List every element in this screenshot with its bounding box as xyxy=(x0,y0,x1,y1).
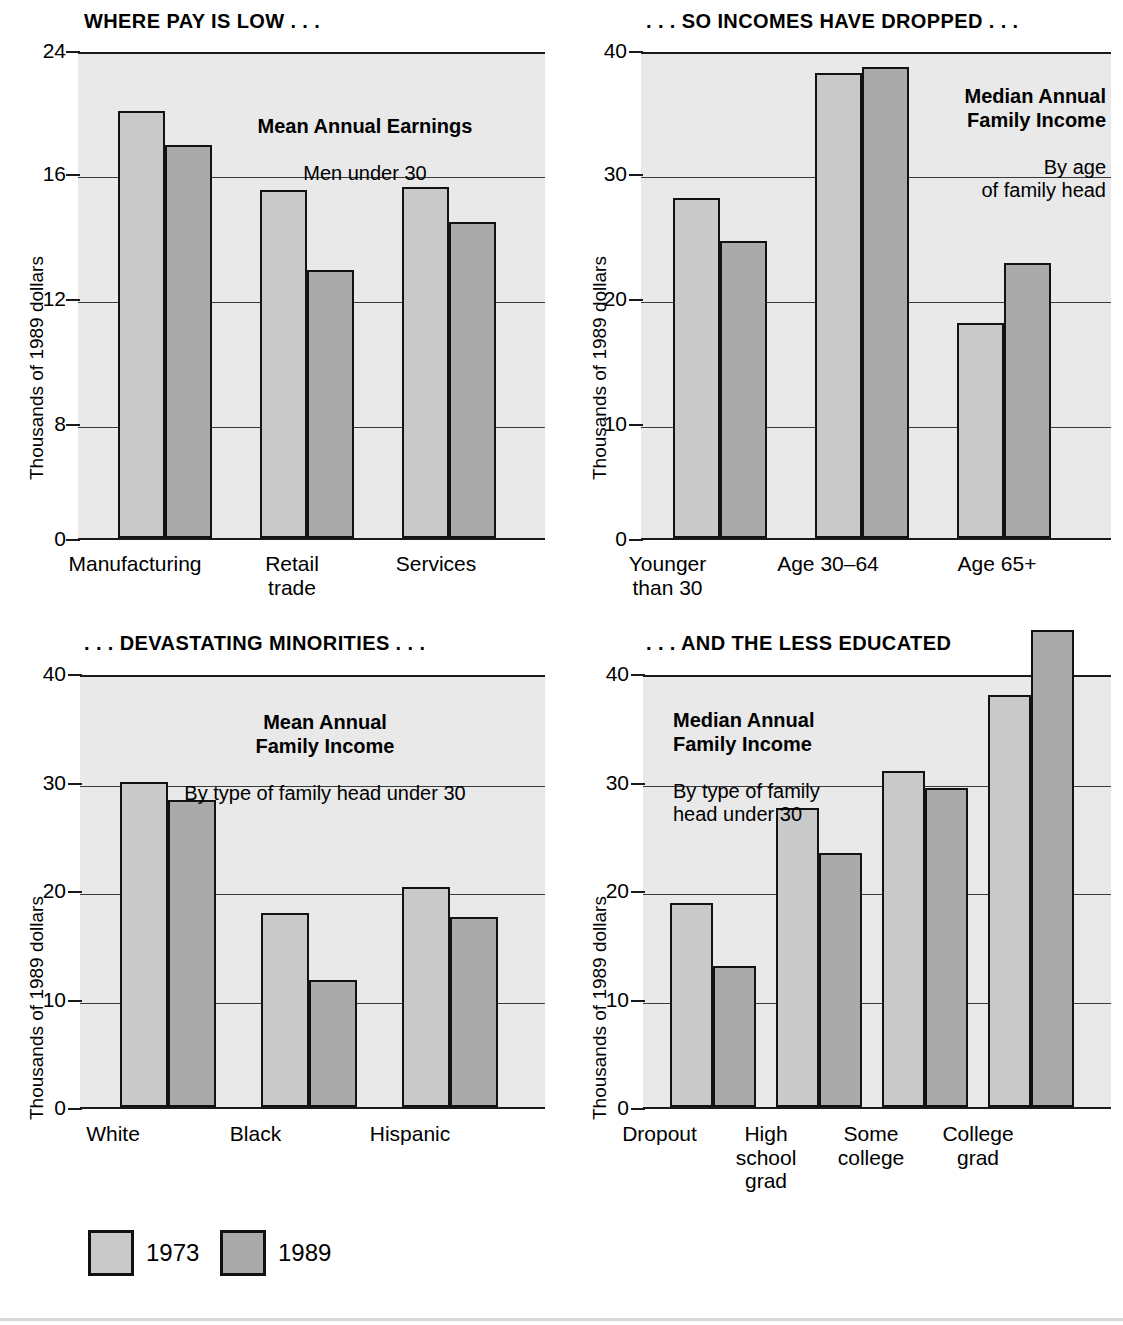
y-tick-0: 40 xyxy=(571,39,627,63)
panel-devastating-minorities: . . . DEVASTATING MINORITIES . . . Thous… xyxy=(0,620,561,1220)
x-label-younger-than-30: Younger than 30 xyxy=(595,552,740,599)
panel-annotation: Median Annual Family Income By type of f… xyxy=(673,686,923,850)
annotation-bold: Median Annual Family Income xyxy=(891,85,1106,132)
y-tickmark-0 xyxy=(629,51,643,53)
bar-age-65-plus-1973 xyxy=(957,323,1004,538)
y-tick-0: 40 xyxy=(573,662,629,686)
legend-item-1989: 1989 xyxy=(220,1230,331,1276)
y-tick-4: 0 xyxy=(10,1096,66,1120)
figure-legend: 1973 1989 xyxy=(0,1222,1123,1292)
y-tick-0: 40 xyxy=(10,662,66,686)
x-label-services: Services xyxy=(366,552,506,576)
y-tickmark-0 xyxy=(631,674,645,676)
annotation-bold: Mean Annual Family Income xyxy=(130,711,520,758)
x-label-college-grad: College grad xyxy=(918,1122,1038,1169)
x-label-manufacturing: Manufacturing xyxy=(40,552,230,576)
y-tick-1: 30 xyxy=(10,771,66,795)
panel-annotation: Median Annual Family Income By age of fa… xyxy=(891,62,1106,226)
y-tick-2: 20 xyxy=(571,287,627,311)
y-tick-1: 16 xyxy=(16,162,66,186)
bar-black-1989 xyxy=(309,980,357,1107)
x-label-hispanic: Hispanic xyxy=(330,1122,490,1146)
bar-black-1973 xyxy=(261,913,309,1107)
y-tick-4: 0 xyxy=(571,527,627,551)
y-tickmark-2 xyxy=(68,891,82,893)
y-tickmark-4 xyxy=(629,539,643,541)
y-tickmark-1 xyxy=(66,174,80,176)
panel-title: . . . AND THE LESS EDUCATED xyxy=(646,632,951,655)
y-tick-4: 0 xyxy=(16,527,66,551)
y-tickmark-3 xyxy=(629,424,643,426)
y-tick-2: 20 xyxy=(573,879,629,903)
y-tickmark-0 xyxy=(68,674,82,676)
bar-some-college-1989 xyxy=(925,788,968,1107)
y-tickmark-1 xyxy=(631,783,645,785)
y-tickmark-4 xyxy=(631,1108,645,1110)
bar-dropout-1973 xyxy=(670,903,713,1107)
y-tickmark-3 xyxy=(68,1000,82,1002)
panel-so-incomes-have-dropped: . . . SO INCOMES HAVE DROPPED . . . Thou… xyxy=(561,0,1123,620)
bar-younger-than-30-1989 xyxy=(720,241,767,538)
y-tickmark-3 xyxy=(66,424,80,426)
panel-and-the-less-educated: . . . AND THE LESS EDUCATED Thousands of… xyxy=(561,620,1123,1220)
x-label-black: Black xyxy=(188,1122,323,1146)
annotation-sub: By type of family head under 30 xyxy=(130,782,520,805)
panel-annotation: Mean Annual Family Income By type of fam… xyxy=(130,688,520,828)
bar-high-school-grad-1989 xyxy=(819,853,862,1107)
legend-swatch-1989 xyxy=(220,1230,266,1276)
y-tickmark-3 xyxy=(631,1000,645,1002)
panel-where-pay-is-low: WHERE PAY IS LOW . . . Thousands of 1989… xyxy=(0,0,561,620)
panel-title: WHERE PAY IS LOW . . . xyxy=(84,10,320,33)
y-tick-0: 24 xyxy=(16,39,66,63)
y-tick-3: 8 xyxy=(16,412,66,436)
x-label-retail-trade: Retail trade xyxy=(222,552,362,599)
legend-label-1973: 1973 xyxy=(146,1239,199,1267)
y-tickmark-2 xyxy=(629,299,643,301)
bar-white-1989 xyxy=(168,800,216,1107)
bar-retail-trade-1989 xyxy=(307,270,354,538)
bar-hispanic-1973 xyxy=(402,887,450,1107)
y-tick-3: 10 xyxy=(10,988,66,1012)
annotation-sub: Men under 30 xyxy=(215,162,515,185)
figure-root: WHERE PAY IS LOW . . . Thousands of 1989… xyxy=(0,0,1123,1325)
y-tickmark-2 xyxy=(631,891,645,893)
y-tick-4: 0 xyxy=(573,1096,629,1120)
y-tickmark-4 xyxy=(66,539,80,541)
annotation-bold: Mean Annual Earnings xyxy=(215,115,515,138)
bar-college-grad-1973 xyxy=(988,695,1031,1107)
bottom-rule xyxy=(0,1318,1123,1321)
bar-age-65-plus-1989 xyxy=(1004,263,1051,538)
y-tickmark-1 xyxy=(68,783,82,785)
y-tickmark-1 xyxy=(629,174,643,176)
bar-younger-than-30-1973 xyxy=(673,198,720,538)
legend-label-1989: 1989 xyxy=(278,1239,331,1267)
y-tick-3: 10 xyxy=(571,412,627,436)
bar-manufacturing-1973 xyxy=(118,111,165,538)
x-label-high-school-grad: High school grad xyxy=(707,1122,825,1193)
x-label-age-30-64: Age 30–64 xyxy=(743,552,913,576)
annotation-sub: By age of family head xyxy=(891,156,1106,203)
y-tickmark-2 xyxy=(66,299,80,301)
y-tickmark-0 xyxy=(66,51,80,53)
y-tick-1: 30 xyxy=(573,771,629,795)
bar-services-1973 xyxy=(402,187,449,538)
y-tickmark-4 xyxy=(68,1108,82,1110)
panel-title: . . . SO INCOMES HAVE DROPPED . . . xyxy=(646,10,1019,33)
panel-title: . . . DEVASTATING MINORITIES . . . xyxy=(84,632,425,655)
y-tick-3: 10 xyxy=(573,988,629,1012)
legend-item-1973: 1973 xyxy=(88,1230,199,1276)
bar-age-30-64-1973 xyxy=(815,73,862,538)
annotation-bold: Median Annual Family Income xyxy=(673,709,923,756)
y-tick-1: 30 xyxy=(571,162,627,186)
bar-hispanic-1989 xyxy=(450,917,498,1107)
y-tick-2: 20 xyxy=(10,879,66,903)
legend-swatch-1973 xyxy=(88,1230,134,1276)
y-tick-2: 12 xyxy=(16,287,66,311)
x-label-white: White xyxy=(48,1122,178,1146)
bar-white-1973 xyxy=(120,782,168,1107)
annotation-sub: By type of family head under 30 xyxy=(673,780,923,827)
x-label-some-college: Some college xyxy=(811,1122,931,1169)
bar-manufacturing-1989 xyxy=(165,145,212,538)
x-label-dropout: Dropout xyxy=(597,1122,722,1146)
bar-high-school-grad-1973 xyxy=(776,808,819,1107)
